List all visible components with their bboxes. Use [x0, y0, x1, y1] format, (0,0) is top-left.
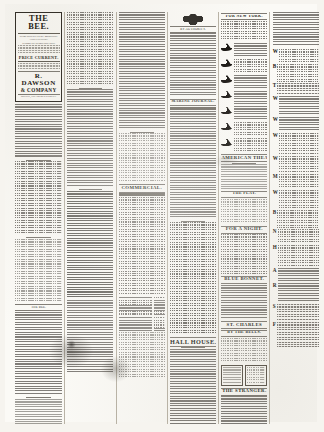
- body-text-block: [278, 245, 319, 267]
- shipping-advertisement: [221, 91, 267, 106]
- classified-initial: W: [273, 96, 278, 101]
- body-text-block: [15, 239, 62, 303]
- classified-initial: W: [273, 133, 278, 138]
- spacer: [15, 395, 62, 396]
- horizontal-rule: [221, 226, 267, 227]
- classified-ad-text: [279, 117, 318, 132]
- horizontal-rule: [119, 192, 165, 193]
- horizontal-rule: [221, 388, 267, 389]
- masthead: THE BEE.PUBLISHED EVERY MORNING AND EVEN…: [15, 12, 62, 102]
- body-text-block: [119, 12, 165, 130]
- shipping-ad-text: [234, 59, 267, 74]
- body-text-block: [15, 104, 62, 158]
- shipping-ad-text: [234, 138, 267, 153]
- horizontal-rule: [181, 347, 205, 348]
- body-text-block: [15, 312, 62, 395]
- column-classified-ads: WBTWWWWMWBNHARSF: [269, 12, 320, 424]
- publisher-name-second-line: & COMPANY: [18, 88, 60, 93]
- column-grid: THE BEE.PUBLISHED EVERY MORNING AND EVEN…: [13, 12, 321, 424]
- classified-ad-text: [279, 190, 318, 210]
- spacer: [221, 41, 267, 42]
- body-text-block: [170, 222, 216, 335]
- body-text-block: [279, 174, 319, 189]
- playbill-panel-cell: [245, 365, 267, 386]
- horizontal-rule: [232, 163, 256, 164]
- body-text-block: [234, 122, 267, 137]
- horizontal-rule: [170, 107, 216, 110]
- classified-initial: H: [273, 245, 277, 250]
- body-text-block: [279, 190, 318, 210]
- classified-initial: N: [273, 229, 277, 234]
- classified-ad: H: [273, 245, 319, 267]
- horizontal-rule: [119, 184, 165, 185]
- table-cell-price: [154, 328, 165, 331]
- body-text-block: [221, 285, 267, 319]
- body-text-block: [234, 91, 267, 106]
- body-text-block: [221, 164, 267, 189]
- column-commercial: COMMERCIAL.: [116, 12, 167, 424]
- spacer: [67, 373, 113, 374]
- classified-ad: W: [273, 96, 319, 116]
- spacer: [221, 223, 267, 224]
- body-text-block: [221, 234, 267, 273]
- classified-initial: M: [273, 174, 278, 179]
- shipping-advertisement: [221, 43, 267, 58]
- body-text-block: [67, 89, 113, 187]
- classified-initial: W: [273, 156, 278, 161]
- body-text-block: [234, 59, 267, 74]
- body-text-block: [119, 332, 165, 376]
- classified-initial: F: [273, 322, 276, 327]
- body-text-block: [223, 367, 241, 384]
- body-text-block: [18, 63, 60, 70]
- newspaper-page-scan: THE BEE.PUBLISHED EVERY MORNING AND EVEN…: [0, 0, 324, 432]
- horizontal-rule: [221, 197, 267, 198]
- column-leader-editorial: THE BEE.PUBLISHED EVERY MORNING AND EVEN…: [13, 12, 64, 424]
- horizontal-rule: [221, 233, 267, 234]
- body-text-block: [277, 64, 318, 81]
- spacer: [170, 335, 216, 336]
- masthead-title: THE BEE.: [18, 15, 60, 32]
- sailing-ship-icon: [221, 91, 232, 100]
- table-cell-item: [119, 328, 152, 331]
- horizontal-rule: [79, 88, 103, 89]
- spacer: [221, 274, 267, 275]
- spacer: [170, 97, 216, 98]
- classified-ad: M: [273, 174, 319, 189]
- horizontal-rule: [15, 304, 62, 305]
- body-text-block: [119, 328, 152, 331]
- sailing-ship-icon: [221, 43, 232, 52]
- horizontal-rule: [221, 13, 267, 14]
- classified-ad: F: [273, 322, 319, 347]
- shipping-ad-text: [234, 75, 267, 90]
- body-text-block: [67, 191, 113, 299]
- body-text-block: [221, 199, 267, 224]
- body-text-block: [234, 138, 267, 153]
- horizontal-rule: [119, 193, 165, 196]
- column-news: [64, 12, 115, 424]
- spacer: [221, 362, 267, 363]
- ad-heading: BY THE BELLS.: [221, 331, 267, 335]
- horizontal-rule: [181, 221, 205, 222]
- ad-heading: COMMERCIAL.: [119, 186, 165, 191]
- body-text-block: [221, 21, 267, 41]
- body-text-block: [221, 338, 267, 363]
- body-text-block: [67, 300, 113, 374]
- spacer: [15, 235, 62, 236]
- spacer: [15, 302, 62, 303]
- horizontal-rule: [18, 61, 60, 62]
- classified-ad: A: [273, 268, 319, 283]
- table-row: [119, 328, 165, 331]
- classified-ad: W: [273, 117, 319, 132]
- body-text-block: [119, 197, 165, 295]
- classified-initial: R: [273, 283, 277, 288]
- classified-initial: S: [273, 304, 276, 309]
- body-text-block: [234, 75, 267, 90]
- body-text-block: [234, 106, 267, 121]
- masthead-office-line: OFFICE, CHARTRES STREET.: [18, 95, 60, 98]
- spacer: [119, 182, 165, 183]
- classified-ad-text: [277, 322, 318, 347]
- body-text-block: [277, 83, 318, 95]
- body-text-block: [277, 322, 318, 347]
- body-text-block: [279, 96, 318, 116]
- classified-ad-text: [278, 229, 319, 244]
